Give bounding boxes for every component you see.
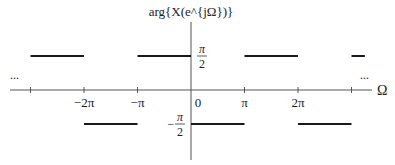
y-tick-label-numerator: π: [199, 42, 206, 56]
y-tick-label-numerator: π: [177, 110, 184, 124]
continuation-right: ...: [360, 68, 369, 82]
phase-chart: −2π−π0π2π arg{X(e^{jΩ})} Ω ... ... π2π2−: [0, 0, 395, 165]
x-tick-label: 2π: [291, 95, 305, 110]
x-tick-label: 0: [195, 95, 202, 110]
continuation-left: ...: [10, 68, 19, 82]
x-axis-label: Ω: [377, 83, 387, 98]
x-tick-label: −π: [131, 95, 145, 110]
y-axis-label: arg{X(e^{jΩ})}: [149, 4, 234, 19]
y-tick-label-denominator: 2: [199, 57, 205, 71]
y-tick-label-denominator: 2: [177, 125, 183, 139]
axes: [10, 22, 372, 160]
x-tick-label: −2π: [74, 95, 95, 110]
x-tick-label: π: [241, 95, 248, 110]
y-tick-label-sign: −: [168, 117, 175, 131]
